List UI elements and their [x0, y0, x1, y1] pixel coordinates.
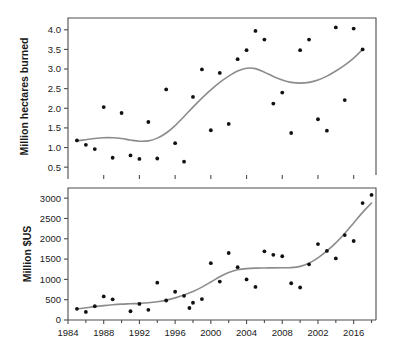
- data-point: [138, 302, 142, 306]
- data-point: [280, 91, 284, 95]
- data-point: [316, 242, 320, 246]
- data-point: [129, 309, 133, 313]
- data-point: [191, 301, 195, 305]
- data-point: [146, 308, 150, 312]
- two-panel-chart: 0.51.01.52.02.53.03.54.0Million hectares…: [0, 0, 393, 361]
- data-point: [227, 251, 231, 255]
- y-tick-label: 2.0: [48, 103, 61, 114]
- data-point: [182, 160, 186, 164]
- data-point: [289, 281, 293, 285]
- data-point: [155, 157, 159, 161]
- smoother-curve: [77, 49, 363, 141]
- data-point: [334, 26, 338, 30]
- data-point: [271, 102, 275, 106]
- data-point: [173, 290, 177, 294]
- data-point: [188, 306, 192, 310]
- y-tick-label: 3.5: [48, 44, 61, 55]
- x-tick-label: 1996: [165, 327, 186, 338]
- y-tick-label: 500: [45, 294, 61, 305]
- y-tick-label: 2000: [40, 233, 61, 244]
- data-point: [245, 48, 249, 52]
- data-point: [155, 281, 159, 285]
- data-points: [75, 193, 373, 314]
- data-point: [325, 249, 329, 253]
- data-point: [173, 141, 177, 145]
- data-point: [75, 307, 79, 311]
- y-tick-label: 0.5: [48, 162, 61, 173]
- panel-bottom: 0500100015002000250030001984198819921996…: [21, 188, 376, 338]
- data-point: [138, 157, 142, 161]
- data-point: [325, 129, 329, 133]
- data-point: [218, 71, 222, 75]
- data-point: [111, 156, 115, 160]
- data-point: [245, 277, 249, 281]
- data-point: [271, 253, 275, 257]
- data-point: [370, 193, 374, 197]
- data-points: [75, 26, 364, 164]
- data-point: [218, 280, 222, 284]
- y-tick-label: 2500: [40, 213, 61, 224]
- data-point: [84, 143, 88, 147]
- data-point: [182, 294, 186, 298]
- data-point: [316, 117, 320, 121]
- y-tick-label: 4.0: [48, 24, 61, 35]
- x-tick-label: 1988: [93, 327, 114, 338]
- data-point: [263, 38, 267, 42]
- y-tick-label: 2.5: [48, 83, 61, 94]
- data-point: [280, 254, 284, 258]
- data-point: [352, 239, 356, 243]
- panel-top: 0.51.01.52.02.53.03.54.0Million hectares…: [18, 18, 376, 179]
- data-point: [254, 285, 258, 289]
- data-point: [102, 105, 106, 109]
- x-tick-label: 1992: [129, 327, 150, 338]
- data-point: [298, 48, 302, 52]
- data-point: [298, 286, 302, 290]
- data-point: [75, 139, 79, 143]
- data-point: [343, 98, 347, 102]
- data-point: [307, 262, 311, 266]
- data-point: [164, 299, 168, 303]
- data-point: [289, 131, 293, 135]
- data-point: [129, 153, 133, 157]
- data-point: [164, 88, 168, 92]
- data-point: [334, 257, 338, 261]
- data-point: [93, 147, 97, 151]
- data-point: [343, 233, 347, 237]
- data-point: [236, 57, 240, 61]
- data-point: [200, 68, 204, 72]
- x-tick-label: 2008: [272, 327, 293, 338]
- data-point: [361, 48, 365, 52]
- data-point: [352, 27, 356, 31]
- smoother-curve: [77, 203, 372, 309]
- y-tick-label: 1500: [40, 253, 61, 264]
- y-tick-label: 3.0: [48, 63, 61, 74]
- y-tick-label: 1.5: [48, 122, 61, 133]
- y-axis-title: Million $US: [21, 226, 33, 283]
- data-point: [236, 265, 240, 269]
- data-point: [209, 261, 213, 265]
- x-tick-label: 1984: [57, 327, 78, 338]
- data-point: [209, 128, 213, 132]
- data-point: [361, 201, 365, 205]
- data-point: [84, 310, 88, 314]
- x-tick-label: 2016: [343, 327, 364, 338]
- data-point: [191, 95, 195, 99]
- x-tick-label: 2004: [236, 327, 257, 338]
- data-point: [93, 304, 97, 308]
- data-point: [200, 297, 204, 301]
- data-point: [263, 249, 267, 253]
- y-tick-label: 3000: [40, 193, 61, 204]
- y-tick-label: 1000: [40, 274, 61, 285]
- data-point: [254, 29, 258, 33]
- data-point: [307, 38, 311, 42]
- figure-container: 0.51.01.52.02.53.03.54.0Million hectares…: [0, 0, 393, 361]
- x-tick-label: 2002: [307, 327, 328, 338]
- y-axis-title: Million hectares burned: [18, 38, 30, 156]
- y-tick-label: 0: [56, 314, 61, 325]
- data-point: [227, 122, 231, 126]
- data-point: [111, 297, 115, 301]
- data-point: [120, 111, 124, 115]
- data-point: [102, 295, 106, 299]
- x-tick-label: 2000: [200, 327, 221, 338]
- plot-frame: [68, 18, 376, 175]
